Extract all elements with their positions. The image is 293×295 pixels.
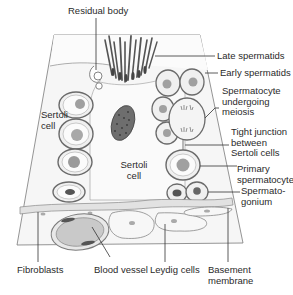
label-fibroblasts: Fibroblasts (17, 265, 63, 276)
label-sertoli-cell-center: Sertoli cell (116, 160, 152, 181)
label-residual-body: Residual body (68, 6, 128, 17)
label-sertoli-cell-left: Sertoli cell (41, 110, 68, 131)
label-leydig-cells: Leydig cells (150, 265, 200, 276)
label-spermatogonium: Spermato- gonium (241, 186, 285, 207)
label-spermatocyte-meiosis: Spermatocyte undergoing meiosis (222, 86, 281, 118)
label-early-spermatids: Early spermatids (220, 68, 291, 79)
label-late-spermatids: Late spermatids (217, 51, 285, 62)
label-basement-membrane: Basement membrane (208, 265, 253, 286)
label-tight-junction: Tight junction between Sertoli cells (231, 127, 287, 159)
label-primary-spermatocyte: Primary spermatocyte (237, 164, 293, 185)
label-blood-vessel: Blood vessel (94, 265, 148, 276)
